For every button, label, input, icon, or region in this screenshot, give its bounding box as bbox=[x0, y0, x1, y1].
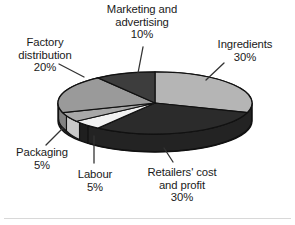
slice-label-factory-line1: Factory bbox=[2, 36, 88, 49]
slice-label-marketing-line2: advertising bbox=[88, 16, 196, 29]
slice-label-ingredients: Ingredients 30% bbox=[198, 38, 292, 63]
slice-label-retailers: Retailers' cost and profit 30% bbox=[130, 166, 234, 204]
slice-value-factory: 20% bbox=[2, 61, 88, 74]
slice-value-labour: 5% bbox=[58, 181, 132, 194]
leader-line-ingredients bbox=[206, 63, 224, 80]
slice-value-ingredients: 30% bbox=[198, 51, 292, 64]
leader-line-packaging bbox=[46, 128, 63, 145]
slice-label-retailers-line2: and profit bbox=[130, 179, 234, 192]
slice-label-factory-line2: distribution bbox=[2, 49, 88, 62]
bottom-divider bbox=[4, 218, 291, 219]
pie-slices bbox=[58, 72, 252, 134]
slice-label-retailers-line1: Retailers' cost bbox=[130, 166, 234, 179]
slice-label-ingredients-line1: Ingredients bbox=[198, 38, 292, 51]
slice-label-marketing: Marketing and advertising 10% bbox=[88, 3, 196, 41]
slice-value-retailers: 30% bbox=[130, 191, 234, 204]
slice-label-marketing-line1: Marketing and bbox=[88, 3, 196, 16]
slice-label-factory-distribution: Factory distribution 20% bbox=[2, 36, 88, 74]
pie-chart-figure: Marketing and advertising 10% Ingredient… bbox=[0, 0, 295, 225]
slice-value-marketing: 10% bbox=[88, 28, 196, 41]
slice-label-packaging-line1: Packaging bbox=[2, 146, 82, 159]
slice-label-labour: Labour 5% bbox=[58, 168, 132, 193]
slice-label-labour-line1: Labour bbox=[58, 168, 132, 181]
leader-line-marketing bbox=[138, 47, 143, 73]
